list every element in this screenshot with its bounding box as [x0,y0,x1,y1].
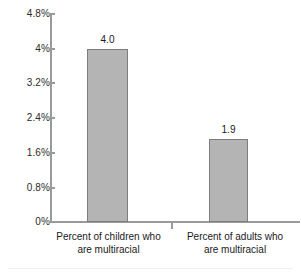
y-tick-4: 4% [0,44,50,54]
bar-children-multiracial [87,49,128,222]
x-category-label-line: Percent of adults who [173,230,297,243]
y-tick-label: 2.4% [4,113,50,123]
y-tick-0.8: 0.8% [0,183,50,193]
bar-chart: 4.8% 4% 3.2% 2.4% 1.6% 0.8% 0% 4.0 1.9 P… [0,0,301,273]
y-tick-label: 0.8% [4,183,50,193]
x-category-label-line: are multiracial [173,243,297,256]
bar-adults-multiracial [209,139,248,222]
y-tick-2.4: 2.4% [0,113,50,123]
x-axis-category-separator-tick [171,223,173,229]
y-tick-label: 0% [4,217,50,227]
bar-value-label: 1.9 [198,125,259,135]
y-tick-mark [50,152,55,154]
bar-value-label: 4.0 [77,35,138,45]
x-category-label-adults: Percent of adults who are multiracial [173,230,297,256]
y-tick-mark [50,82,55,84]
y-tick-label: 1.6% [4,148,50,158]
y-tick-4.8: 4.8% [0,9,50,19]
y-tick-0: 0% [0,217,50,227]
y-tick-mark [50,48,55,50]
y-tick-mark [50,13,55,15]
y-tick-label: 4% [4,44,50,54]
x-category-label-children: Percent of children who are multiracial [46,230,171,256]
y-tick-label: 3.2% [4,78,50,88]
y-tick-3.2: 3.2% [0,78,50,88]
y-tick-mark [50,187,55,189]
y-tick-label: 4.8% [4,9,50,19]
y-tick-1.6: 1.6% [0,148,50,158]
y-tick-mark [50,117,55,119]
x-category-label-line: are multiracial [46,243,171,256]
page-scan-artifact [8,268,293,269]
x-category-label-line: Percent of children who [46,230,171,243]
